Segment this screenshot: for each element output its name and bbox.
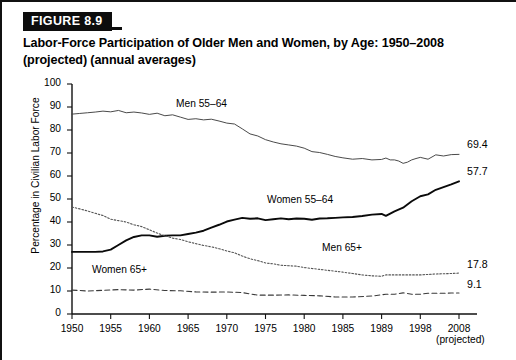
y-axis-tick-label: 40 — [33, 215, 61, 226]
series-line-1 — [72, 181, 459, 252]
end-value-label: 9.1 — [467, 278, 482, 290]
end-value-label: 17.8 — [467, 258, 488, 270]
y-axis-tick-label: 90 — [33, 100, 61, 111]
line-chart-svg — [2, 2, 516, 360]
y-axis-tick-label: 30 — [33, 238, 61, 249]
end-value-label: 69.4 — [467, 138, 488, 150]
y-axis-tick-label: 10 — [33, 284, 61, 295]
y-axis-tick-label: 100 — [33, 77, 61, 88]
series-inline-label: Women 65+ — [90, 264, 149, 275]
y-axis-tick-label: 80 — [33, 123, 61, 134]
chart-plot-area: Percentage in Civilian Labor Force 01020… — [2, 2, 516, 360]
figure-container: FIGURE 8.9 Labor-Force Participation of … — [0, 0, 516, 360]
y-axis-tick-label: 20 — [33, 261, 61, 272]
series-inline-label: Men 65+ — [320, 242, 364, 253]
end-value-label: 57.7 — [467, 165, 488, 177]
series-line-3 — [72, 289, 459, 297]
y-axis-tick-label: 50 — [33, 192, 61, 203]
series-inline-label: Men 55–64 — [174, 98, 229, 109]
y-axis-tick-label: 0 — [33, 307, 61, 318]
series-line-0 — [72, 110, 459, 163]
series-inline-label: Women 55–64 — [265, 194, 335, 205]
x-axis-tick-label: 2008(projected) — [436, 323, 482, 345]
y-axis-tick-label: 60 — [33, 169, 61, 180]
y-axis-tick-label: 70 — [33, 146, 61, 157]
x-axis-projected-note: (projected) — [436, 334, 482, 345]
